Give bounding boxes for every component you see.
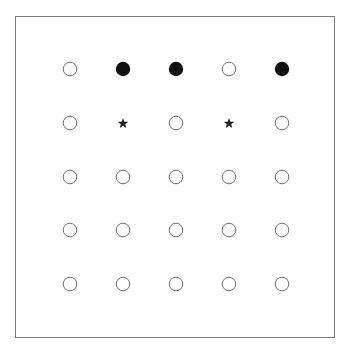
empty-circle-icon	[217, 272, 241, 296]
filled-circle-icon	[270, 57, 294, 81]
empty-circle-icon	[111, 218, 135, 242]
empty-circle-icon	[164, 272, 188, 296]
empty-circle-icon	[270, 272, 294, 296]
empty-circle-icon	[58, 218, 82, 242]
empty-circle-icon	[58, 272, 82, 296]
filled-circle-icon	[111, 57, 135, 81]
empty-circle-icon	[270, 111, 294, 135]
empty-circle-icon	[270, 165, 294, 189]
empty-circle-icon	[111, 165, 135, 189]
empty-circle-icon	[164, 111, 188, 135]
empty-circle-icon	[164, 165, 188, 189]
empty-circle-icon	[217, 218, 241, 242]
empty-circle-icon	[217, 57, 241, 81]
empty-circle-icon	[164, 218, 188, 242]
empty-circle-icon	[270, 218, 294, 242]
empty-circle-icon	[58, 111, 82, 135]
empty-circle-icon	[111, 272, 135, 296]
filled-circle-icon	[164, 57, 188, 81]
empty-circle-icon	[58, 165, 82, 189]
star-icon	[217, 111, 241, 135]
empty-circle-icon	[217, 165, 241, 189]
star-icon	[111, 111, 135, 135]
empty-circle-icon	[58, 57, 82, 81]
